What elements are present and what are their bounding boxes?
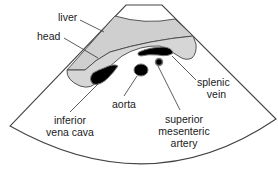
label-sma-line1: superior — [156, 113, 212, 125]
label-ivc: inferior vena cava — [42, 114, 98, 138]
label-ivc-line2: vena cava — [42, 126, 98, 138]
label-aorta: aorta — [112, 98, 136, 110]
leader-liver — [80, 20, 104, 32]
ultrasound-sector-diagram — [0, 0, 278, 177]
label-head: head — [37, 30, 60, 42]
label-splenic-vein: splenic — [197, 76, 230, 88]
label-splenic-vein-line1: splenic — [197, 76, 230, 88]
label-splenic-vein-line2: vein — [197, 88, 236, 100]
label-sma: superior mesenteric artery — [156, 113, 212, 149]
label-ivc-line1: inferior — [42, 114, 98, 126]
label-splenic-vein-line2-wrap: vein — [197, 88, 236, 100]
aorta-shape — [134, 64, 148, 76]
label-sma-line3: artery — [156, 137, 212, 149]
label-sma-line2: mesenteric — [156, 125, 212, 137]
sma-shape — [156, 59, 163, 66]
label-liver: liver — [58, 11, 77, 23]
